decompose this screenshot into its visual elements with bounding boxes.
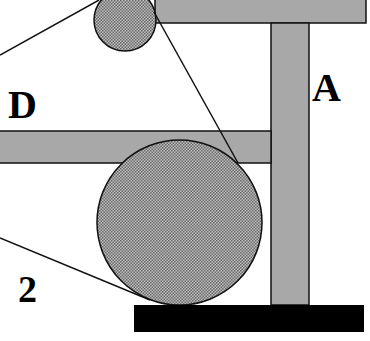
base-block — [134, 305, 364, 332]
large-pulley-circle — [97, 140, 262, 305]
label-a: A — [312, 65, 341, 110]
pulley-diagram: A D 2 — [0, 0, 370, 341]
label-2: 2 — [18, 268, 37, 310]
vertical-post — [271, 23, 309, 305]
label-d: D — [8, 82, 37, 127]
belt-line-upper-left — [0, 0, 99, 55]
top-horizontal-bar — [155, 0, 366, 23]
small-pulley-circle — [94, 0, 156, 51]
